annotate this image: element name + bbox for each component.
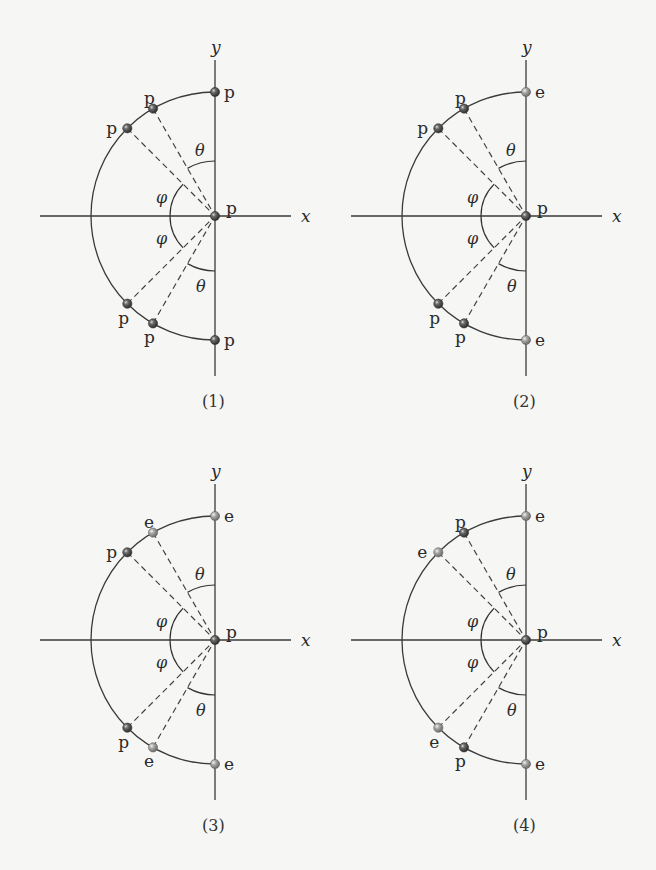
origin-label: p bbox=[537, 622, 548, 642]
lower-phi-angle-arc bbox=[170, 216, 183, 248]
top-y-particle-e bbox=[521, 511, 530, 520]
origin-particle-p bbox=[521, 635, 530, 644]
upper-theta-label: θ bbox=[506, 141, 516, 160]
top-y-particle-p bbox=[210, 87, 219, 96]
upper-theta-label: θ bbox=[195, 565, 205, 584]
upper-phi-particle-p bbox=[434, 124, 443, 133]
lower-theta-angle-arc bbox=[188, 688, 216, 695]
upper-phi-label: φ bbox=[156, 188, 168, 207]
top-y-particle-e bbox=[521, 87, 530, 96]
bottom-y-label: e bbox=[535, 754, 545, 774]
top-y-label: e bbox=[224, 506, 234, 526]
panel-caption: (1) bbox=[202, 392, 225, 411]
upper-phi-angle-arc bbox=[170, 184, 183, 216]
upper-theta-angle-arc bbox=[188, 161, 216, 168]
lower-theta-point-label: p bbox=[455, 327, 466, 347]
y-axis-label: y bbox=[210, 461, 221, 481]
lower-theta-label: θ bbox=[507, 701, 517, 720]
lower-phi-point-label: e bbox=[429, 732, 439, 752]
top-y-label: e bbox=[535, 506, 545, 526]
x-axis-label: x bbox=[301, 630, 311, 650]
lower-theta-label: θ bbox=[196, 701, 206, 720]
panel-caption: (4) bbox=[513, 816, 536, 835]
lower-phi-label: φ bbox=[467, 653, 479, 672]
top-y-label: p bbox=[224, 82, 235, 102]
panel-2: xyθθφφepppppe(2) bbox=[351, 37, 622, 411]
panel-4: xyθθφφepepepe(4) bbox=[351, 461, 622, 835]
bottom-y-label: e bbox=[224, 754, 234, 774]
bottom-y-particle-e bbox=[521, 335, 530, 344]
panel-caption: (3) bbox=[202, 816, 225, 835]
bottom-y-particle-e bbox=[521, 759, 530, 768]
origin-label: p bbox=[537, 198, 548, 218]
bottom-y-label: e bbox=[535, 330, 545, 350]
y-axis-label: y bbox=[210, 37, 221, 57]
upper-theta-angle-arc bbox=[188, 585, 216, 592]
upper-theta-point-label: p bbox=[455, 512, 466, 532]
origin-label: p bbox=[226, 622, 237, 642]
top-y-label: e bbox=[535, 82, 545, 102]
lower-phi-angle-arc bbox=[481, 640, 494, 672]
lower-phi-angle-arc bbox=[170, 640, 183, 672]
x-axis-label: x bbox=[612, 630, 622, 650]
bottom-y-particle-p bbox=[210, 335, 219, 344]
lower-phi-angle-arc bbox=[481, 216, 494, 248]
upper-theta-point-label: p bbox=[144, 88, 155, 108]
lower-phi-label: φ bbox=[156, 229, 168, 248]
upper-phi-angle-arc bbox=[481, 608, 494, 640]
panel-3: xyθθφφeepppee(3) bbox=[40, 461, 311, 835]
upper-theta-angle-arc bbox=[499, 161, 527, 168]
top-y-particle-e bbox=[210, 511, 219, 520]
upper-theta-point-label: e bbox=[144, 512, 154, 532]
lower-theta-label: θ bbox=[507, 277, 517, 296]
lower-theta-point-label: p bbox=[144, 327, 155, 347]
upper-theta-angle-arc bbox=[499, 585, 527, 592]
upper-phi-label: φ bbox=[467, 188, 479, 207]
origin-label: p bbox=[226, 198, 237, 218]
lower-theta-angle-arc bbox=[499, 688, 527, 695]
x-axis-label: x bbox=[612, 206, 622, 226]
bottom-y-label: p bbox=[224, 330, 235, 350]
upper-phi-particle-p bbox=[123, 548, 132, 557]
lower-theta-angle-arc bbox=[499, 264, 527, 271]
upper-phi-particle-p bbox=[123, 124, 132, 133]
lower-phi-point-label: p bbox=[429, 308, 440, 328]
upper-phi-label: φ bbox=[467, 612, 479, 631]
upper-phi-point-label: p bbox=[106, 542, 117, 562]
y-axis-label: y bbox=[521, 37, 532, 57]
upper-theta-label: θ bbox=[195, 141, 205, 160]
upper-theta-point-label: p bbox=[455, 88, 466, 108]
lower-phi-label: φ bbox=[467, 229, 479, 248]
bottom-y-particle-e bbox=[210, 759, 219, 768]
upper-theta-label: θ bbox=[506, 565, 516, 584]
lower-phi-label: φ bbox=[156, 653, 168, 672]
panel-caption: (2) bbox=[513, 392, 536, 411]
upper-phi-point-label: p bbox=[417, 118, 428, 138]
lower-theta-point-label: p bbox=[455, 751, 466, 771]
upper-phi-point-label: p bbox=[106, 118, 117, 138]
panel-1: xyθθφφppppppp(1) bbox=[40, 37, 311, 411]
origin-particle-p bbox=[210, 211, 219, 220]
y-axis-label: y bbox=[521, 461, 532, 481]
upper-phi-label: φ bbox=[156, 612, 168, 631]
origin-particle-p bbox=[210, 635, 219, 644]
x-axis-label: x bbox=[301, 206, 311, 226]
upper-phi-point-label: e bbox=[417, 542, 427, 562]
lower-phi-point-label: p bbox=[118, 308, 129, 328]
upper-phi-particle-e bbox=[434, 548, 443, 557]
lower-phi-point-label: p bbox=[118, 732, 129, 752]
lower-theta-angle-arc bbox=[188, 264, 216, 271]
origin-particle-p bbox=[521, 211, 530, 220]
lower-theta-label: θ bbox=[196, 277, 206, 296]
upper-phi-angle-arc bbox=[481, 184, 494, 216]
lower-theta-point-label: e bbox=[144, 751, 154, 771]
particle-configuration-figure: xyθθφφppppppp(1)xyθθφφepppppe(2)xyθθφφee… bbox=[0, 0, 656, 870]
upper-phi-angle-arc bbox=[170, 608, 183, 640]
